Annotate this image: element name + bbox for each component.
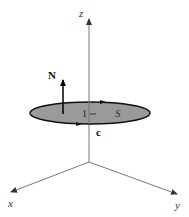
diagram-svg: z x y N S c 1: [0, 0, 189, 217]
x-axis: [11, 162, 89, 192]
z-axis-label: z: [78, 7, 84, 19]
curve-label: c: [96, 126, 101, 138]
y-axis: [89, 162, 177, 194]
surface-s: [30, 102, 150, 124]
diagram-canvas: z x y N S c 1: [0, 0, 189, 217]
x-axis-label: x: [7, 197, 13, 209]
normal-vector-label: N: [48, 69, 56, 81]
unit-mark-label: 1: [82, 108, 87, 119]
y-axis-label: y: [174, 199, 180, 211]
surface-label: S: [115, 107, 121, 119]
